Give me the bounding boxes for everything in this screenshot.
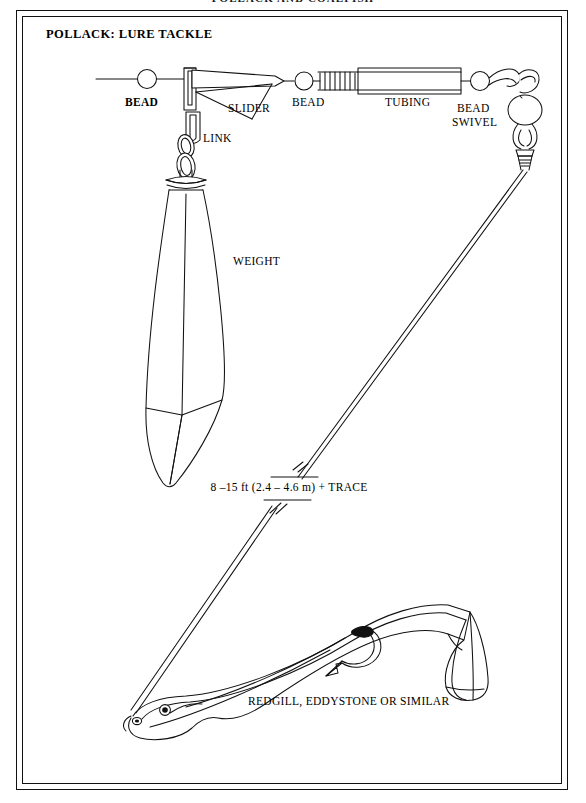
label-lure: REDGILL, EDDYSTONE OR SIMILAR xyxy=(248,695,449,707)
label-bead-left: BEAD xyxy=(125,96,158,108)
label-tubing: TUBING xyxy=(385,96,430,108)
border-frame-inner xyxy=(22,16,562,784)
label-bead-middle: BEAD xyxy=(292,96,325,108)
label-bead-swivel-line1: BEAD xyxy=(457,102,490,114)
page-title: POLLACK: LURE TACKLE xyxy=(46,27,213,42)
illustration-page: POLLACK AND COALFISH POLLACK: LURE TACKL… xyxy=(0,0,586,803)
label-weight: WEIGHT xyxy=(233,255,280,267)
label-link: LINK xyxy=(203,132,232,144)
label-slider: SLIDER xyxy=(228,102,270,114)
label-trace: 8 –15 ft (2.4 – 4.6 m) + TRACE xyxy=(210,481,367,493)
label-bead-swivel-line2: SWIVEL xyxy=(452,116,497,128)
running-head: POLLACK AND COALFISH xyxy=(0,0,586,4)
